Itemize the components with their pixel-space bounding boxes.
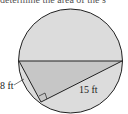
label-8ft: 8 ft xyxy=(0,80,14,91)
circle-diagram xyxy=(0,0,128,114)
label-15ft: 15 ft xyxy=(79,84,98,95)
